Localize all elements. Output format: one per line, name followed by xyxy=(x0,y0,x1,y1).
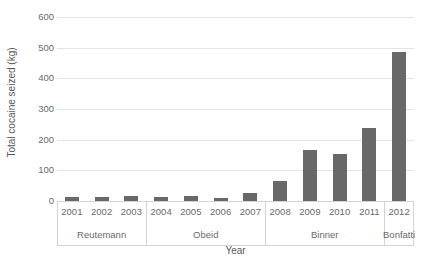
bar-2012[interactable] xyxy=(392,52,406,201)
y-tick-label-200: 200 xyxy=(8,135,54,145)
group-label-binner: Binner xyxy=(265,222,384,246)
y-axis-tick-labels: 0100200300400500600 xyxy=(6,17,54,201)
year-label-2012: 2012 xyxy=(384,201,414,222)
bar-2010[interactable] xyxy=(333,154,347,201)
y-tick-label-0: 0 xyxy=(8,196,54,206)
group-label-obeid: Obeid xyxy=(146,222,265,246)
bar-2008[interactable] xyxy=(273,181,287,201)
y-tick-label-600: 600 xyxy=(8,12,54,22)
category-axis-groups: ReutemannObeidBinnerBonfatti xyxy=(57,222,414,246)
year-label-2003: 2003 xyxy=(117,201,147,222)
x-axis-title: Year xyxy=(57,245,414,256)
bar-chart: Total cocaine seized (kg) 01002003004005… xyxy=(0,0,421,264)
year-label-2006: 2006 xyxy=(206,201,236,222)
year-label-2007: 2007 xyxy=(236,201,266,222)
bar-2011[interactable] xyxy=(362,128,376,201)
bars-layer xyxy=(57,17,414,201)
y-tick-label-100: 100 xyxy=(8,166,54,176)
year-label-2005: 2005 xyxy=(176,201,206,222)
year-label-2002: 2002 xyxy=(87,201,117,222)
year-label-2004: 2004 xyxy=(146,201,176,222)
year-label-2001: 2001 xyxy=(57,201,87,222)
bar-2007[interactable] xyxy=(243,193,257,201)
group-label-bonfatti: Bonfatti xyxy=(384,222,414,246)
year-label-2009: 2009 xyxy=(295,201,325,222)
year-label-2010: 2010 xyxy=(325,201,355,222)
year-label-2011: 2011 xyxy=(355,201,385,222)
y-tick-label-400: 400 xyxy=(8,74,54,84)
y-tick-label-500: 500 xyxy=(8,43,54,53)
group-label-reutemann: Reutemann xyxy=(57,222,146,246)
bar-2009[interactable] xyxy=(303,150,317,201)
x-axis-title-label: Year xyxy=(225,245,245,256)
year-label-2008: 2008 xyxy=(265,201,295,222)
y-tick-label-300: 300 xyxy=(8,104,54,114)
category-axis-years: 2001200220032004200520062007200820092010… xyxy=(57,201,414,222)
